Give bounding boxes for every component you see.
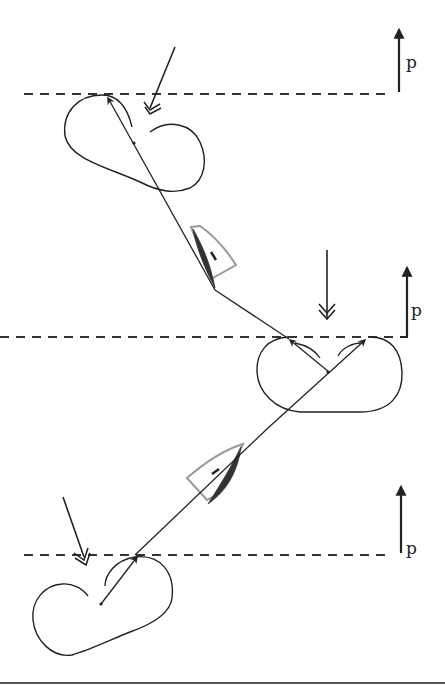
bottom-divider xyxy=(0,682,445,684)
distance-label-middle: p xyxy=(411,302,422,319)
section-middle xyxy=(0,250,408,428)
track-line-middle-a xyxy=(290,340,329,372)
loop-middle xyxy=(257,337,402,412)
sailing-diagram xyxy=(0,0,445,686)
distance-label-top: p xyxy=(406,54,417,71)
distance-label-bottom: p xyxy=(406,540,417,557)
loop-bottom xyxy=(33,557,173,656)
wind-arrow-middle-icon xyxy=(319,250,335,319)
boat-upper-icon xyxy=(191,226,236,288)
wind-arrow-bottom-icon xyxy=(63,497,90,565)
track-line-top xyxy=(108,98,215,290)
track-line-lower xyxy=(135,428,268,555)
section-bottom xyxy=(24,487,401,655)
track-line-middle-in xyxy=(215,290,289,339)
boat-lower-icon xyxy=(187,444,243,504)
section-top xyxy=(24,30,399,290)
wind-arrow-top-icon xyxy=(144,47,175,114)
